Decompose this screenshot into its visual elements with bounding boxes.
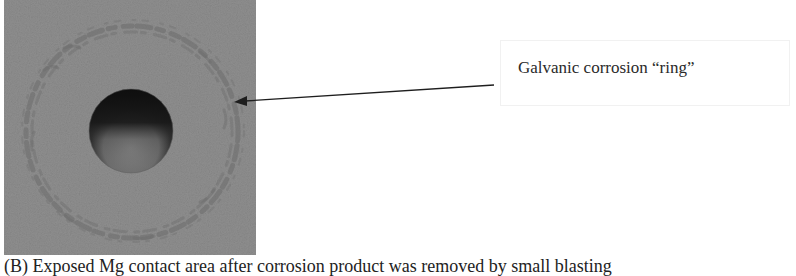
corrosion-photo: [4, 0, 256, 255]
figure-caption: (B) Exposed Mg contact area after corros…: [4, 256, 612, 276]
photo-graphic: [4, 0, 256, 255]
hole: [89, 89, 173, 173]
annotation-label: Galvanic corrosion “ring”: [518, 58, 695, 78]
